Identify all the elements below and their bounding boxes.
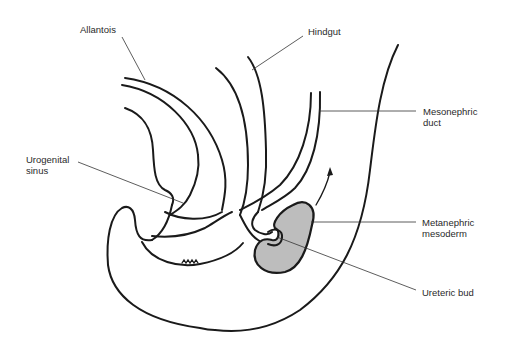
label-hindgut: Hindgut: [308, 26, 341, 37]
mesonephric-duct-shape: [240, 92, 320, 210]
label-mesonephric-duct: Mesonephric duct: [423, 106, 477, 128]
urogenital-sinus-shape: [108, 205, 272, 330]
label-urogenital-sinus: Urogenital sinus: [26, 154, 69, 176]
label-ureteric-bud: Ureteric bud: [422, 287, 474, 298]
body-outline-right: [215, 45, 398, 331]
hindgut-shape: [216, 57, 266, 215]
label-metanephric-mesoderm: Metanephric mesoderm: [422, 217, 474, 239]
metanephric-mesoderm-shape: [255, 202, 314, 272]
allantois-shape: [122, 78, 225, 215]
label-allantois: Allantois: [80, 24, 116, 35]
curved-arrow-icon: [316, 167, 333, 205]
